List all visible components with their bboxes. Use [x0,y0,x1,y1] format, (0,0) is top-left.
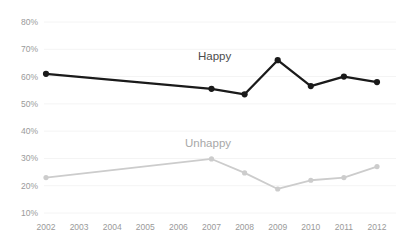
x-tick-2012: 2012 [360,222,394,232]
x-tick-2010: 2010 [294,222,328,232]
line-chart: 80%70%60%50%40%30%20%10% 200220032004200… [0,0,405,250]
data-point-unhappy-2008 [242,170,247,175]
series-happy [43,57,380,97]
x-tick-2011: 2011 [327,222,361,232]
data-point-unhappy-2010 [308,178,313,183]
x-tick-2006: 2006 [161,222,195,232]
y-tick-50%: 50% [6,99,38,109]
x-tick-2004: 2004 [95,222,129,232]
y-tick-60%: 60% [6,72,38,82]
data-point-happy-2010 [308,83,314,89]
data-point-happy-2011 [341,73,347,79]
x-tick-2003: 2003 [62,222,96,232]
data-point-happy-2012 [374,79,380,85]
data-point-unhappy-2011 [341,175,346,180]
series-line-unhappy [46,159,377,189]
chart-plot-area [0,0,405,250]
x-tick-2007: 2007 [195,222,229,232]
series-label-unhappy: Unhappy [185,137,231,149]
data-point-unhappy-2012 [374,164,379,169]
y-tick-80%: 80% [6,17,38,27]
y-tick-30%: 30% [6,153,38,163]
data-point-happy-2008 [242,91,248,97]
x-tick-2005: 2005 [128,222,162,232]
data-point-happy-2007 [208,86,214,92]
data-point-happy-2009 [275,57,281,63]
x-tick-2009: 2009 [261,222,295,232]
x-tick-2002: 2002 [29,222,63,232]
data-point-unhappy-2002 [43,175,48,180]
y-tick-10%: 10% [6,208,38,218]
series-label-happy: Happy [198,50,231,62]
x-tick-2008: 2008 [228,222,262,232]
series-unhappy [43,156,379,191]
data-point-unhappy-2007 [209,156,214,161]
y-tick-40%: 40% [6,126,38,136]
y-tick-70%: 70% [6,44,38,54]
y-tick-20%: 20% [6,181,38,191]
data-point-unhappy-2009 [275,186,280,191]
data-point-happy-2002 [43,71,49,77]
